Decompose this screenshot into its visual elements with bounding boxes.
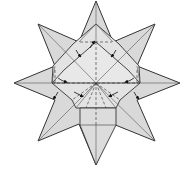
lower-flap xyxy=(80,108,116,165)
origami-star-diagram xyxy=(0,0,191,176)
